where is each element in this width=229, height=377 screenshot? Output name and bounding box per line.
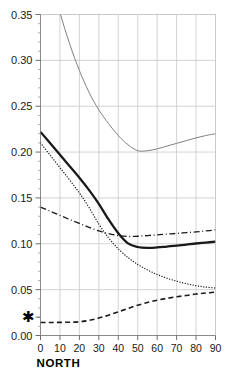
- series-group: [41, 0, 216, 322]
- axis-ticks: [36, 15, 216, 341]
- x-tick-label: 30: [93, 342, 105, 354]
- x-axis-title: NORTH: [37, 357, 81, 369]
- x-tick-label: 40: [112, 342, 124, 354]
- x-tick-label: 20: [74, 342, 86, 354]
- line-chart: 0.000.050.100.150.200.250.300.3501020304…: [0, 0, 229, 377]
- x-tick-label: 50: [132, 342, 144, 354]
- chart-container: 0.000.050.100.150.200.250.300.3501020304…: [0, 0, 229, 377]
- x-tick-label: 70: [171, 342, 183, 354]
- series-line-dotted: [41, 143, 216, 288]
- x-tick-label: 90: [210, 342, 222, 354]
- y-tick-labels: 0.000.050.100.150.200.250.300.35: [11, 9, 32, 342]
- y-tick-label: 0.05: [11, 284, 32, 296]
- series-line-thin-solid-upper: [41, 0, 216, 151]
- star-marker: ✱: [22, 308, 35, 325]
- y-tick-label: 0.20: [11, 146, 32, 158]
- x-tick-labels: 0102030405060708090: [38, 342, 222, 354]
- grid-lines: [41, 15, 216, 336]
- series-line-dashed-lower: [41, 292, 216, 322]
- y-tick-label: 0.00: [11, 330, 32, 342]
- y-tick-label: 0.15: [11, 192, 32, 204]
- x-tick-label: 80: [190, 342, 202, 354]
- plot-frame: [41, 15, 216, 336]
- y-tick-label: 0.30: [11, 54, 32, 66]
- y-tick-label: 0.25: [11, 100, 32, 112]
- y-tick-label: 0.35: [11, 9, 32, 21]
- x-tick-label: 60: [151, 342, 163, 354]
- x-tick-label: 0: [38, 342, 44, 354]
- x-tick-label: 10: [54, 342, 66, 354]
- series-line-dash-dot: [41, 207, 216, 236]
- series-line-thick-solid: [41, 132, 216, 248]
- y-tick-label: 0.10: [11, 238, 32, 250]
